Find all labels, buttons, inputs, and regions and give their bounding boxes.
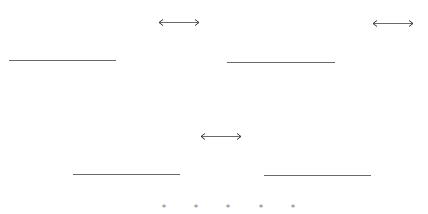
double-arrow-icon xyxy=(200,132,242,141)
horizontal-line xyxy=(73,174,180,175)
horizontal-line xyxy=(227,62,335,63)
double-arrow-icon xyxy=(158,18,200,27)
horizontal-line xyxy=(9,60,116,61)
double-arrow-icon xyxy=(372,19,414,28)
asterisk-icon: * xyxy=(194,204,199,213)
asterisk-icon: * xyxy=(259,204,264,213)
asterisk-icon: * xyxy=(226,204,231,213)
horizontal-line xyxy=(264,175,371,176)
asterisk-icon: * xyxy=(162,204,167,213)
asterisk-icon: * xyxy=(291,204,296,213)
